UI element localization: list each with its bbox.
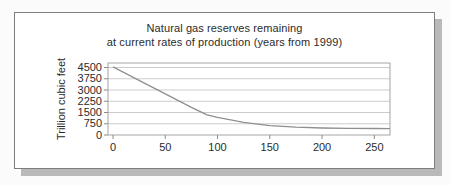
y-tick-label: 1500 (78, 106, 102, 118)
x-tick-label: 100 (208, 141, 226, 153)
y-tick-label: 750 (84, 117, 102, 129)
line-chart: 075015002250300037504500050100150200250T… (15, 13, 433, 167)
x-tick-label: 150 (261, 141, 279, 153)
y-tick-label: 4500 (78, 61, 102, 73)
x-tick-label: 0 (110, 141, 116, 153)
page-background: Natural gas reserves remaining at curren… (0, 0, 451, 185)
y-tick-label: 3000 (78, 84, 102, 96)
data-line (113, 67, 390, 129)
x-tick-label: 200 (313, 141, 331, 153)
y-axis-title: Trillion cubic feet (55, 58, 67, 140)
x-tick-label: 250 (365, 141, 383, 153)
chart-card: Natural gas reserves remaining at curren… (14, 12, 435, 169)
x-tick-label: 50 (159, 141, 171, 153)
y-tick-label: 2250 (78, 95, 102, 107)
y-tick-label: 3750 (78, 72, 102, 84)
y-tick-label: 0 (96, 129, 102, 141)
